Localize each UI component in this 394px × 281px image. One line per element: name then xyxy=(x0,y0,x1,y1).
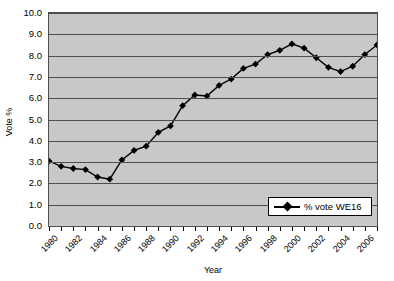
y-axis-tick-label: 10.0 xyxy=(8,8,42,18)
chart-container: Vote % 0.01.02.03.04.05.06.07.08.09.010.… xyxy=(0,0,394,281)
x-axis-tick xyxy=(219,227,220,231)
diamond-marker-icon xyxy=(282,202,292,212)
y-axis-tick-label: 5.0 xyxy=(8,115,42,125)
x-axis-tick xyxy=(268,227,269,231)
x-axis-tick xyxy=(377,227,378,231)
x-axis-title: Year xyxy=(183,265,243,275)
y-axis-tick-label: 3.0 xyxy=(8,157,42,167)
data-point-marker xyxy=(276,47,283,54)
legend-label: % vote WE16 xyxy=(304,201,362,212)
y-axis-tick-label: 6.0 xyxy=(8,93,42,103)
y-axis-tick-label: 7.0 xyxy=(8,72,42,82)
x-axis-tick xyxy=(231,227,232,231)
data-point-marker xyxy=(167,122,174,129)
y-axis-tick-label: 1.0 xyxy=(8,200,42,210)
x-axis-tick xyxy=(122,227,123,231)
x-axis-tick xyxy=(341,227,342,231)
gridline xyxy=(49,162,377,163)
y-axis-tick-label: 2.0 xyxy=(8,178,42,188)
x-axis-tick xyxy=(49,227,50,231)
x-axis-tick xyxy=(73,227,74,231)
gridline xyxy=(49,13,377,14)
y-axis-tick-label: 8.0 xyxy=(8,51,42,61)
gridline xyxy=(49,98,377,99)
gridline xyxy=(49,34,377,35)
x-axis-tick xyxy=(170,227,171,231)
gridline xyxy=(49,183,377,184)
plot-area xyxy=(48,12,378,227)
y-axis-tick-label: 0.0 xyxy=(8,221,42,231)
x-axis-tick xyxy=(98,227,99,231)
x-axis-tick xyxy=(280,227,281,231)
x-axis-tick xyxy=(328,227,329,231)
x-axis-tick xyxy=(85,227,86,231)
legend: % vote WE16 xyxy=(268,197,372,216)
gridline xyxy=(49,77,377,78)
x-axis-tick xyxy=(207,227,208,231)
data-point-marker xyxy=(58,163,65,170)
x-axis-tick xyxy=(353,227,354,231)
x-axis-tick xyxy=(146,227,147,231)
x-axis-tick xyxy=(292,227,293,231)
data-point-marker xyxy=(289,40,296,47)
gridline xyxy=(49,56,377,57)
gridline xyxy=(49,141,377,142)
x-axis-tick xyxy=(365,227,366,231)
x-axis-tick xyxy=(195,227,196,231)
y-axis-tick-label: 4.0 xyxy=(8,136,42,146)
data-point-marker xyxy=(106,176,113,183)
x-axis-tick xyxy=(316,227,317,231)
x-axis-tick xyxy=(183,227,184,231)
y-axis-title-wrap: Vote % xyxy=(2,95,16,155)
y-axis-tick-label: 9.0 xyxy=(8,29,42,39)
data-point-marker xyxy=(70,165,77,172)
x-axis-tick xyxy=(134,227,135,231)
data-point-marker xyxy=(82,166,89,173)
x-axis-tick xyxy=(110,227,111,231)
x-axis-tick xyxy=(61,227,62,231)
data-point-marker xyxy=(337,68,344,75)
x-axis-tick xyxy=(256,227,257,231)
gridline xyxy=(49,120,377,121)
data-point-marker xyxy=(94,174,101,181)
x-axis-tick xyxy=(304,227,305,231)
x-axis-tick xyxy=(243,227,244,231)
x-axis-tick xyxy=(158,227,159,231)
series-line xyxy=(49,44,377,179)
legend-marker-icon xyxy=(274,202,300,212)
